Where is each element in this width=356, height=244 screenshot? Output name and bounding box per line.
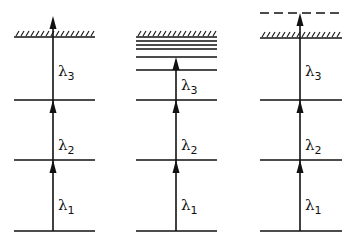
- wavelength-label-lambda1: λ1: [181, 196, 198, 217]
- wavelength-label-lambda2: λ2: [181, 136, 198, 157]
- arrowhead-icon: [173, 160, 180, 173]
- arrowhead-icon: [297, 100, 304, 113]
- wavelength-label-lambda1: λ1: [305, 196, 322, 217]
- wavelength-label-lambda2: λ2: [58, 136, 75, 157]
- wavelength-label-lambda2: λ2: [305, 136, 322, 157]
- arrowhead-icon: [297, 13, 304, 26]
- wavelength-label-lambda1: λ1: [58, 196, 75, 217]
- arrowhead-icon: [297, 160, 304, 173]
- ionization-limit-hatching: [138, 31, 216, 36]
- panel-2: λ1λ2λ3: [136, 31, 217, 231]
- wavelength-label-lambda3: λ3: [181, 76, 198, 97]
- panel-1: λ1λ2λ3: [14, 16, 95, 231]
- arrowhead-icon: [50, 100, 57, 113]
- ionization-limit-hatching: [16, 31, 94, 36]
- arrowhead-icon: [173, 57, 180, 70]
- ionization-limit-hatching: [262, 32, 340, 37]
- panel-3: λ1λ2λ3: [260, 13, 342, 231]
- arrowhead-icon: [50, 16, 57, 29]
- arrowhead-icon: [50, 160, 57, 173]
- energy-level-diagram: λ1λ2λ3λ1λ2λ3λ1λ2λ3: [0, 0, 356, 244]
- arrowhead-icon: [173, 100, 180, 113]
- wavelength-label-lambda3: λ3: [58, 62, 75, 83]
- wavelength-label-lambda3: λ3: [305, 62, 322, 83]
